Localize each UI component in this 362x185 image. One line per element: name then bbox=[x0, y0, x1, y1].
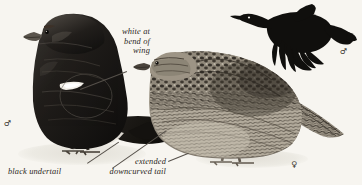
male-foot-right bbox=[80, 152, 100, 155]
annotation-line-2: bend of bbox=[88, 37, 150, 47]
female-foot-right bbox=[232, 163, 254, 166]
annotation-line-1: black undertail bbox=[8, 167, 61, 177]
annotation-line-1: white at bbox=[88, 27, 150, 37]
sex-symbol-male-flight: ♂ bbox=[340, 48, 347, 56]
female-foot-left bbox=[210, 162, 232, 165]
annotation-extended-downcurved-tail: extended downcurved tail bbox=[98, 157, 166, 176]
male-eye bbox=[45, 30, 49, 34]
flight-neck-head bbox=[239, 14, 272, 29]
sex-symbol-male-perched: ♂ bbox=[4, 120, 11, 128]
annotation-white-at-bend-of-wing: white at bend of wing bbox=[88, 27, 150, 56]
male-perched-figure bbox=[0, 0, 362, 185]
male-bill bbox=[23, 32, 42, 41]
flight-eye bbox=[248, 16, 250, 18]
annotation-line-3: wing bbox=[88, 46, 150, 56]
female-bill bbox=[133, 63, 150, 70]
annotation-line-1: extended bbox=[98, 157, 166, 167]
annotation-line-2: downcurved tail bbox=[98, 167, 166, 177]
flight-bill bbox=[230, 16, 242, 21]
annotation-black-undertail: black undertail bbox=[8, 167, 61, 177]
sex-symbol-female-perched: ♀ bbox=[291, 161, 297, 169]
field-guide-plate: white at bend of wing black undertail ex… bbox=[0, 0, 362, 185]
female-eye bbox=[155, 61, 158, 64]
